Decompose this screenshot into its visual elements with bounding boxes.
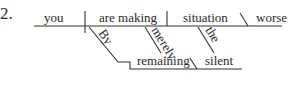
subject-word: you xyxy=(44,10,64,25)
gerund-complement-word: silent xyxy=(205,53,234,68)
diagram-number: 2. xyxy=(0,4,13,23)
gerund-word: remaining xyxy=(137,53,190,68)
prep-word: By xyxy=(96,26,117,47)
complement-slash xyxy=(240,13,248,26)
gerund-complement-slash xyxy=(190,58,197,69)
verb-word: are making xyxy=(99,10,158,25)
object-word: situation xyxy=(183,10,228,25)
complement-word: worse xyxy=(256,10,287,25)
article-word: the xyxy=(202,24,223,46)
sentence-diagram: 2. you are making situation worse By mer… xyxy=(0,0,304,91)
